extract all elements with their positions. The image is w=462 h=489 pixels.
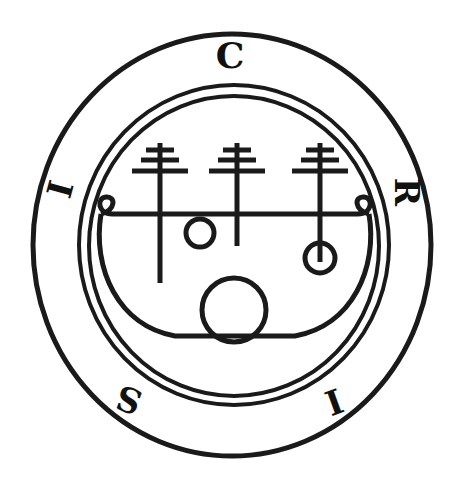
ring-letter-right: R	[387, 178, 427, 207]
inner-ring-outer	[79, 85, 389, 405]
sigil-drawing: C R I S I	[0, 0, 462, 489]
sigil-canvas: C R I S I	[0, 0, 462, 489]
sigil-bar-small-circle	[186, 219, 214, 247]
ring-letter-left: I	[39, 176, 82, 202]
ring-letter-bottom-right: I	[320, 380, 349, 423]
inner-ring-inner	[89, 96, 379, 396]
ring-letter-bottom-left: S	[111, 377, 148, 423]
sigil-bottom-large-circle	[202, 278, 266, 342]
ring-letter-top: C	[216, 34, 245, 76]
sigil-left-curl-icon	[100, 197, 113, 214]
sitri-sigil-glyph	[99, 143, 370, 342]
sigil-right-curl-icon	[357, 197, 370, 214]
